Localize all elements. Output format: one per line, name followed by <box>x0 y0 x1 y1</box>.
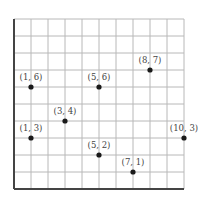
point-marker <box>28 135 33 140</box>
point-marker <box>28 84 33 89</box>
point-marker <box>130 169 135 174</box>
point-marker <box>62 118 67 123</box>
point-label: (1, 3) <box>20 123 43 133</box>
point-marker <box>181 135 186 140</box>
point-marker <box>96 84 101 89</box>
point-marker <box>96 152 101 157</box>
point-label: (1, 6) <box>20 72 43 82</box>
point-label: (5, 2) <box>88 140 111 150</box>
point-label: (7, 1) <box>122 157 145 167</box>
point-label: (5, 6) <box>88 72 111 82</box>
point-marker <box>147 67 152 72</box>
point-label: (8, 7) <box>139 55 162 65</box>
scatter-plot: (1, 6)(5, 6)(8, 7)(3, 4)(1, 3)(10, 3)(5,… <box>0 0 205 202</box>
grid-lines <box>14 19 184 189</box>
data-points: (1, 6)(5, 6)(8, 7)(3, 4)(1, 3)(10, 3)(5,… <box>20 55 199 175</box>
point-label: (10, 3) <box>170 123 198 133</box>
point-label: (3, 4) <box>54 106 77 116</box>
